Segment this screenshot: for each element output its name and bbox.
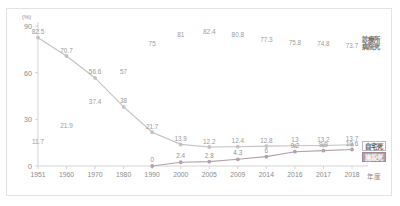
legend-hosp-line1: 診療所 xyxy=(362,36,380,43)
data-label-診療所病院死-1970: 37.4 xyxy=(83,98,107,105)
data-label-自宅死-1980: 38 xyxy=(112,97,136,104)
data-label-施設死-2009: 4.3 xyxy=(226,149,250,156)
data-label-診療所病院死-1980: 57 xyxy=(112,68,136,75)
data-label-診療所病院死-2000: 81 xyxy=(169,31,193,38)
data-label-診療所病院死-2017: 74.8 xyxy=(311,40,335,47)
data-label-施設死-2016: 9.2 xyxy=(283,142,307,149)
legend-item-hospital[interactable]: 診療所病院死 xyxy=(362,36,380,51)
data-label-診療所病院死-2016: 75.8 xyxy=(283,39,307,46)
x-axis-tick-2014: 2014 xyxy=(253,171,279,178)
legend-hosp-line2: 病院死 xyxy=(362,43,380,50)
y-axis-tick-30: 30 xyxy=(16,115,32,124)
data-label-施設死-2000: 2.4 xyxy=(169,152,193,159)
x-axis-tick-2009: 2009 xyxy=(225,171,251,178)
data-label-診療所病院死-2005: 82.4 xyxy=(197,28,221,35)
data-label-診療所病院死-2009: 80.8 xyxy=(226,31,250,38)
legend-item-facility[interactable]: 施設死 xyxy=(362,152,386,162)
x-axis-tick-2000: 2000 xyxy=(168,171,194,178)
data-label-自宅死-1960: 70.7 xyxy=(55,47,79,54)
data-label-施設死-2005: 2.8 xyxy=(197,152,221,159)
data-label-自宅死-2014: 12.8 xyxy=(254,137,278,144)
x-axis-tick-1990: 1990 xyxy=(139,171,165,178)
data-label-診療所病院死-1990: 75 xyxy=(140,40,164,47)
x-axis-tick-1980: 1980 xyxy=(111,171,137,178)
data-label-自宅死-2005: 12.2 xyxy=(197,138,221,145)
data-label-自宅死-2009: 12.4 xyxy=(226,137,250,144)
data-label-診療所病院死-1951: 11.7 xyxy=(26,138,50,145)
data-label-施設死-2018: 10.6 xyxy=(340,140,364,147)
data-label-診療所病院死-1960: 21.9 xyxy=(55,122,79,129)
data-label-自宅死-1990: 21.7 xyxy=(140,123,164,130)
data-label-自宅死-1951: 82.5 xyxy=(26,28,50,35)
x-axis-tick-2005: 2005 xyxy=(196,171,222,178)
data-label-施設死-2017: 9.9 xyxy=(311,141,335,148)
x-axis-tick-1960: 1960 xyxy=(54,171,80,178)
x-axis-tick-1970: 1970 xyxy=(82,171,108,178)
data-label-自宅死-1970: 56.6 xyxy=(83,68,107,75)
x-axis-tick-2016: 2016 xyxy=(282,171,308,178)
data-label-診療所病院死-2014: 77.3 xyxy=(254,36,278,43)
x-axis-tick-2018: 2018 xyxy=(339,171,365,178)
data-label-施設死-1990: 0 xyxy=(140,156,164,163)
y-axis-unit: (%) xyxy=(22,14,31,20)
y-axis-tick-60: 60 xyxy=(16,69,32,78)
data-label-診療所病院死-2018: 73.7 xyxy=(340,42,364,49)
data-label-施設死-2014: 6 xyxy=(254,147,278,154)
x-axis-label: 年度 xyxy=(367,171,381,181)
x-axis-tick-2017: 2017 xyxy=(310,171,336,178)
y-axis-tick-0: 0 xyxy=(16,162,32,171)
legend-item-home[interactable]: 自宅死 xyxy=(362,141,386,151)
data-label-自宅死-2000: 13.9 xyxy=(169,135,193,142)
x-axis-tick-1951: 1951 xyxy=(25,171,51,178)
